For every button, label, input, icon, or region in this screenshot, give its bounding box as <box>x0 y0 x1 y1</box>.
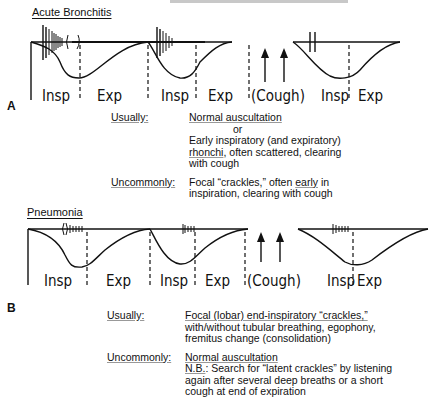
phase-label: (Cough) <box>251 87 305 105</box>
top-divider-bar <box>170 0 348 3</box>
usually-label: Usually: <box>107 309 144 321</box>
note-line: inspiration, clearing with cough <box>189 188 359 200</box>
note-line: in <box>318 176 329 188</box>
phase-label: Insp <box>42 87 70 105</box>
note-line: cough at end of expiration <box>185 386 425 398</box>
note-line: Focal (lobar) end-inspiratory “crackles,… <box>185 309 368 321</box>
note-line: with cough <box>189 158 349 170</box>
note-term: early <box>295 176 318 188</box>
phase-label: Insp <box>44 272 72 290</box>
usually-label: Usually: <box>111 111 148 123</box>
note-line: Normal auscultation <box>189 111 282 123</box>
uncommonly-label: Uncommonly: <box>111 176 175 188</box>
uncommonly-label: Uncommonly: <box>107 351 171 363</box>
note-line: , often scattered, clearing <box>223 146 341 158</box>
note-line: : Search for “latent crackles” by listen… <box>205 362 392 374</box>
section-title-pneumonia: Pneumonia <box>27 206 83 218</box>
note-line: fremitus change (consolidation) <box>185 333 415 345</box>
note-line: Normal auscultation <box>185 351 278 363</box>
phase-label: Exp <box>208 87 233 105</box>
phase-label: (Cough) <box>247 272 301 290</box>
phase-label: Exp <box>97 87 122 105</box>
phase-label: Insp <box>327 272 355 290</box>
phase-label: Insp <box>160 272 188 290</box>
note-term: rhonchi <box>189 146 223 158</box>
phase-label: Exp <box>106 272 131 290</box>
waveform-acute-bronchitis: Insp Exp Insp Exp (Cough) Insp Exp <box>0 22 440 108</box>
note-line: Focal “crackles,” often <box>189 176 295 188</box>
phase-label: Exp <box>357 272 382 290</box>
notes-pneumonia: Usually: Focal (lobar) end-inspiratory “… <box>107 310 425 398</box>
waveform-pneumonia: Insp Exp Insp Exp (Cough) Insp Exp <box>0 222 440 302</box>
section-title-acute-bronchitis: Acute Bronchitis <box>32 6 111 18</box>
phase-label: Insp <box>161 87 189 105</box>
phase-label: Exp <box>205 272 230 290</box>
phase-label: Exp <box>358 87 383 105</box>
note-term: N.B. <box>185 362 205 374</box>
notes-acute-bronchitis: Usually: Normal auscultation or Early in… <box>111 112 359 200</box>
panel-letter-a: A <box>7 99 16 113</box>
panel-letter-b: B <box>7 301 16 315</box>
phase-label: Insp <box>321 87 349 105</box>
